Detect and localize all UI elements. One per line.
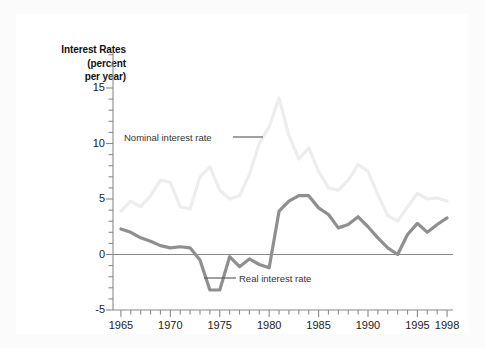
y-tick-label: -5 [79,303,105,315]
x-tick-label: 1998 [425,319,469,331]
y-tick-label: 5 [79,192,105,204]
series-line-nominal-interest-rate [121,98,447,221]
y-tick-label: 10 [79,137,105,149]
x-tick-label: 1965 [99,319,143,331]
real-interest-rate-label: Real interest rate [239,273,311,284]
plot-area: Interest Rates (percent per year) -50510… [16,14,469,334]
x-tick-label: 1970 [148,319,192,331]
chart-figure: Interest Rates (percent per year) -50510… [0,0,485,348]
y-tick-label: 15 [79,81,105,93]
y-tick-label: 0 [79,248,105,260]
x-tick-label: 1980 [247,319,291,331]
x-tick-label: 1985 [297,319,341,331]
chart-canvas [16,14,469,334]
x-tick-label: 1990 [346,319,390,331]
nominal-interest-rate-label: Nominal interest rate [124,132,212,143]
x-tick-label: 1975 [198,319,242,331]
